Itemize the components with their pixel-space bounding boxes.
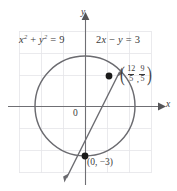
point-label-y-denominator: 5	[139, 74, 145, 84]
line-eq-rhs: 3	[135, 34, 140, 45]
line-equation-label: 2x − y = 3	[96, 35, 140, 46]
point-label-y-numerator: 9	[139, 65, 145, 74]
line-eq-minus: −	[106, 34, 118, 45]
line-eq-equals: =	[123, 34, 135, 45]
x-axis-label: x	[166, 100, 170, 110]
circle-eq-rhs: 9	[59, 34, 64, 45]
point-label-x-fraction: 12 5	[126, 65, 136, 83]
x-axis-arrowhead	[158, 103, 166, 111]
point-label-upper: ( 12 5 , 9 5 )	[119, 63, 153, 85]
intersection-point-upper	[106, 73, 113, 80]
point-label-x-denominator: 5	[128, 74, 134, 84]
point-label-y-fraction: 9 5	[139, 65, 145, 83]
circle-eq-plus: +	[27, 34, 39, 45]
coordinate-graph-figure: x2 + y2 = 9 2x − y = 3 x y 0 (0, −3) ( 1…	[0, 0, 177, 191]
origin-label: 0	[73, 109, 78, 119]
line-arrowhead-lower	[63, 174, 69, 183]
point-label-open-paren: (	[120, 66, 125, 83]
y-axis-label: y	[81, 8, 85, 18]
circle-eq-equals: =	[47, 34, 59, 45]
circle-equation-label: x2 + y2 = 9	[19, 35, 65, 46]
point-label-lower: (0, −3)	[87, 158, 113, 168]
point-label-close-paren: )	[147, 66, 152, 83]
point-label-x-numerator: 12	[126, 65, 136, 74]
